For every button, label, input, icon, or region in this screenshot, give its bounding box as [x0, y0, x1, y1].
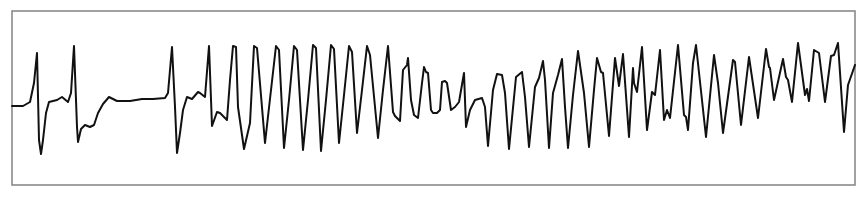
- ecg-rhythm-strip: [0, 0, 867, 200]
- ecg-waveform-trace: [12, 43, 855, 154]
